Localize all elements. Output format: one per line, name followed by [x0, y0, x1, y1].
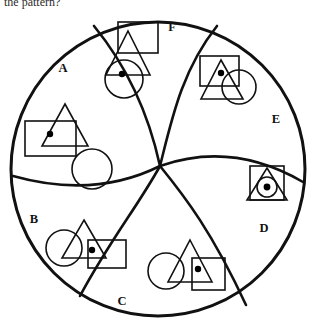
dot-f	[119, 71, 125, 77]
segment-label-c: C	[117, 294, 126, 308]
segment-label-b: B	[30, 212, 38, 226]
figure-canvas: the pattern? A F E D C B	[0, 0, 315, 328]
dot-e	[218, 70, 224, 76]
pinwheel-diagram: A F E D C B	[0, 0, 315, 328]
segment-label-d: D	[259, 221, 268, 235]
dot-c	[195, 266, 201, 272]
segment-label-e: E	[272, 112, 280, 126]
dot-d	[264, 184, 271, 191]
dot-a	[47, 131, 53, 137]
segment-label-a: A	[58, 61, 67, 75]
dot-b	[89, 247, 95, 253]
segment-label-f: F	[168, 20, 176, 34]
